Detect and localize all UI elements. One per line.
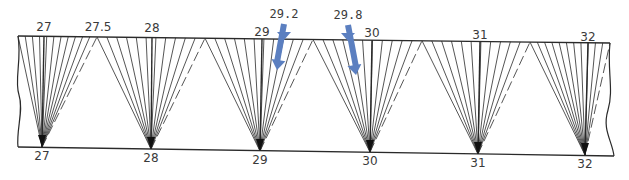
fan-1 bbox=[97, 37, 205, 149]
fan-ray bbox=[552, 42, 585, 155]
fan-dashed-ray bbox=[585, 43, 610, 155]
fan-ray bbox=[471, 41, 478, 154]
top-scale-label: 30 bbox=[364, 26, 379, 40]
fan-ray bbox=[442, 41, 478, 154]
bottom-rule bbox=[18, 147, 614, 156]
fan-5 bbox=[530, 42, 610, 155]
fan-ray bbox=[151, 38, 195, 149]
fan-ray bbox=[370, 41, 402, 152]
fan-dashed-ray bbox=[42, 37, 97, 147]
top-scale-label: 27.5 bbox=[85, 20, 112, 34]
fan-ray bbox=[478, 42, 501, 154]
right-torn-edge bbox=[606, 43, 614, 156]
bottom-scale-label: 32 bbox=[577, 157, 592, 171]
fan-ray bbox=[117, 37, 151, 149]
fan-dashed-ray bbox=[478, 42, 530, 154]
arrow-29-2 bbox=[272, 24, 291, 70]
fan-ray bbox=[370, 40, 392, 152]
fan-ray bbox=[234, 39, 260, 151]
fan-ray bbox=[42, 37, 75, 147]
bottom-scale-label: 31 bbox=[470, 156, 485, 170]
highlight-value-label: 29.8 bbox=[334, 8, 363, 22]
highlight-value-label: 29.2 bbox=[270, 7, 299, 21]
bottom-scale-label: 27 bbox=[34, 149, 49, 163]
scale-labels: 2727.5282930313227282930313229.229.8 bbox=[34, 7, 595, 171]
top-scale-label: 32 bbox=[580, 30, 595, 44]
arrow-29-8 bbox=[341, 25, 361, 75]
top-scale-label: 27 bbox=[36, 20, 51, 34]
fan-ray bbox=[478, 42, 510, 154]
arrow-head-icon bbox=[272, 59, 286, 70]
fan-scale-diagram: 2727.5282930313227282930313229.229.8 bbox=[0, 0, 629, 180]
fan-groups bbox=[18, 36, 610, 155]
fan-ray bbox=[151, 38, 185, 149]
fan-ray bbox=[215, 38, 260, 151]
bottom-scale-label: 28 bbox=[143, 151, 158, 165]
fan-ray bbox=[451, 41, 478, 154]
fan-ray bbox=[18, 36, 42, 147]
fan-ray bbox=[42, 37, 90, 147]
fan-ray bbox=[559, 42, 585, 155]
fan-3 bbox=[313, 39, 422, 152]
top-scale-label: 28 bbox=[144, 21, 159, 35]
fan-ray bbox=[537, 42, 585, 155]
fan-ray bbox=[530, 42, 585, 155]
fan-2 bbox=[205, 38, 313, 151]
bottom-scale-label: 30 bbox=[362, 154, 377, 168]
fan-dashed-ray bbox=[260, 39, 313, 151]
fan-ray bbox=[432, 41, 478, 154]
diagram-frame bbox=[17, 36, 614, 156]
fan-dashed-ray bbox=[370, 41, 422, 152]
left-torn-edge bbox=[17, 36, 20, 147]
fan-ray bbox=[42, 37, 61, 147]
fan-4 bbox=[422, 41, 530, 154]
fan-ray bbox=[97, 37, 151, 149]
fan-dashed-ray bbox=[151, 38, 205, 149]
fan-center-ray bbox=[151, 38, 152, 149]
top-scale-label: 29 bbox=[254, 25, 269, 39]
fan-ray bbox=[107, 37, 151, 149]
fan-0 bbox=[18, 36, 97, 147]
bottom-scale-label: 29 bbox=[252, 153, 267, 167]
top-scale-label: 31 bbox=[472, 28, 487, 42]
